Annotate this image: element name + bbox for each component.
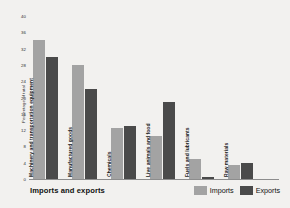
bar-imports	[33, 40, 45, 179]
bar-imports	[111, 128, 123, 179]
bar-exports	[85, 89, 97, 179]
legend-label-imports: Imports	[210, 186, 234, 195]
bar-imports	[150, 136, 162, 179]
category-label: Manufactured goods	[67, 127, 73, 177]
legend-swatch-imports	[194, 186, 207, 195]
bar-group: Fuels and lubricants	[189, 16, 215, 179]
y-axis-tick-label: 0	[24, 177, 27, 182]
y-axis-tick-label: 24	[21, 79, 26, 84]
y-axis-tick-label: 36	[21, 30, 26, 35]
category-label: Live animals and food	[145, 123, 151, 177]
legend-item-exports: Exports	[240, 186, 280, 195]
bar-exports	[163, 102, 175, 179]
category-label: Machinery and transportation equipment	[28, 78, 34, 177]
x-axis-line	[29, 179, 279, 180]
category-label: Raw materials	[223, 143, 229, 177]
bar-groups: Machinery and transportation equipmentMa…	[29, 16, 278, 179]
legend-item-imports: Imports	[194, 186, 234, 195]
plot-area: 4036322824201612840 Machinery and transp…	[29, 16, 278, 179]
bar-exports	[241, 163, 253, 179]
chart-title: Imports and exports	[30, 186, 105, 195]
legend-label-exports: Exports	[256, 186, 280, 195]
bar-exports	[124, 126, 136, 179]
y-axis-title: Percentage of total	[21, 85, 26, 123]
y-axis-tick-label: 8	[24, 144, 27, 149]
bar-exports	[46, 57, 58, 179]
legend-swatch-exports	[240, 186, 253, 195]
bar-imports	[228, 165, 240, 179]
bar-group: Raw materials	[228, 16, 254, 179]
bar-group: Chemicals	[111, 16, 137, 179]
y-axis-tick-label: 40	[21, 14, 26, 19]
y-axis-tick-label: 32	[21, 46, 26, 51]
bar-group: Live animals and food	[150, 16, 176, 179]
category-label: Chemicals	[106, 152, 112, 177]
category-label: Fuels and lubricants	[184, 127, 190, 177]
y-axis-tick-label: 4	[24, 160, 27, 165]
bar-group: Machinery and transportation equipment	[33, 16, 59, 179]
y-axis-tick-label: 20	[21, 95, 26, 100]
bar-group: Manufactured goods	[72, 16, 98, 179]
legend: Imports Exports	[194, 186, 280, 195]
y-axis-tick-label: 12	[21, 128, 26, 133]
bar-imports	[189, 159, 201, 179]
y-axis-tick-label: 16	[21, 111, 26, 116]
chart-figure: Percentage of total 4036322824201612840 …	[0, 0, 290, 208]
y-axis-tick-label: 28	[21, 62, 26, 67]
bar-imports	[72, 65, 84, 179]
bar-exports	[202, 177, 214, 179]
